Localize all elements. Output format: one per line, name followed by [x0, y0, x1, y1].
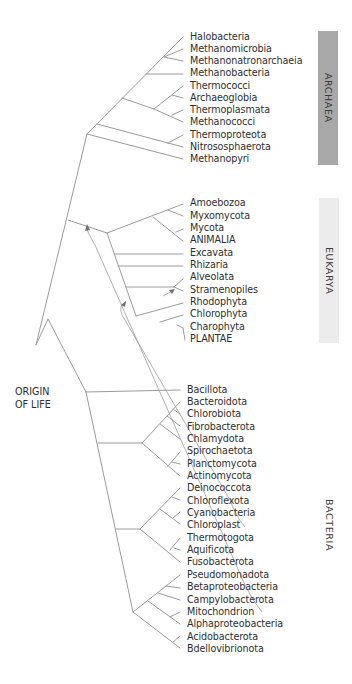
- branch-bacteria-stem: [48, 319, 86, 392]
- taxon-label: Fusobacterota: [187, 556, 254, 568]
- taxon-label: Halobacteria: [190, 31, 250, 43]
- domain-box-eukarya: EUKARYA: [319, 198, 339, 343]
- taxon-label: Chloroplast: [187, 519, 240, 531]
- origin-of-life-label: ORIGIN OF LIFE: [15, 386, 51, 411]
- domain-box-bacteria: BACTERIA: [319, 470, 339, 580]
- taxon-label: Rhizaria: [190, 259, 228, 271]
- origin-line-1: ORIGIN: [15, 386, 51, 399]
- taxon-label: Bacillota: [187, 384, 227, 396]
- branch-origin-stub: [36, 319, 48, 345]
- taxon-label: Methanomicrobia: [190, 43, 272, 55]
- taxon-label: Rhodophyta: [190, 296, 247, 308]
- taxon-label: Actinomycota: [187, 470, 252, 482]
- taxon-label: Alphaproteobacteria: [187, 618, 283, 630]
- taxon-label: Excavata: [190, 247, 233, 259]
- taxon-label: Stramenopiles: [190, 284, 258, 296]
- taxon-label: Myxomycota: [190, 210, 250, 222]
- taxon-label: Bacteroidota: [187, 396, 247, 408]
- taxon-label: Chloroflexota: [187, 495, 249, 507]
- taxon-label: Planctomycota: [187, 458, 257, 470]
- taxon-label: Chlorobiota: [187, 408, 241, 420]
- domain-box-archaea: ARCHAEA: [318, 31, 338, 165]
- taxon-label: Campylobacterota: [187, 594, 274, 606]
- taxon-label: Thermoplasmata: [190, 104, 270, 116]
- taxon-label: Archaeoglobia: [190, 92, 257, 104]
- taxon-label: Spirochaetota: [187, 445, 253, 457]
- domain-label-bacteria: BACTERIA: [324, 499, 335, 551]
- taxon-label: Methanonatronarchaeia: [190, 55, 302, 67]
- arrowhead-icon: [169, 289, 175, 294]
- taxon-label: Mitochondrion: [187, 606, 254, 618]
- branch-archaea-stem: [87, 37, 183, 134]
- taxon-label: Thermotogota: [187, 532, 254, 544]
- taxon-label: Cyanobacteria: [187, 507, 255, 519]
- taxon-label: Thermococci: [190, 80, 250, 92]
- taxon-label: Pseudomonadota: [187, 569, 269, 581]
- taxon-label: Deinococcota: [187, 482, 251, 494]
- taxon-label: Thermoproteota: [190, 129, 266, 141]
- branch-root-trunk: [36, 134, 87, 345]
- taxon-label: Amoebozoa: [190, 197, 246, 209]
- taxon-label: Methanococci: [190, 116, 255, 128]
- taxon-label: Charophyta: [190, 321, 245, 333]
- taxon-label: Nitrososphaerota: [190, 141, 271, 153]
- phylogenetic-tree: [0, 0, 352, 684]
- taxon-label: Mycota: [190, 222, 224, 234]
- taxon-label: Alveolata: [190, 271, 234, 283]
- taxon-label: Betaproteobacteria: [187, 581, 278, 593]
- taxon-label: Acidobacterota: [187, 631, 258, 643]
- taxon-label: Chlamydota: [187, 433, 244, 445]
- taxon-label: Methanopyri: [190, 153, 249, 165]
- origin-line-2: OF LIFE: [15, 399, 51, 412]
- domain-label-eukarya: EUKARYA: [324, 247, 335, 294]
- taxon-label: Bdellovibrionota: [187, 643, 264, 655]
- domain-label-archaea: ARCHAEA: [323, 73, 334, 123]
- taxon-label: Chlorophyta: [190, 308, 247, 320]
- taxon-label: Fibrobacterota: [187, 421, 255, 433]
- taxon-label: Methanobacteria: [190, 67, 270, 79]
- taxon-label: ANIMALIA: [190, 234, 235, 246]
- taxon-label: Aquificota: [187, 544, 234, 556]
- taxon-label: PLANTAE: [190, 333, 232, 345]
